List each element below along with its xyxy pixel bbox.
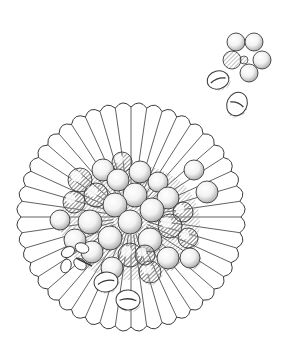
- split-bean: [222, 89, 252, 122]
- split-bean: [205, 68, 233, 93]
- illustration: [0, 0, 292, 362]
- flower-bean-cluster: [223, 33, 271, 82]
